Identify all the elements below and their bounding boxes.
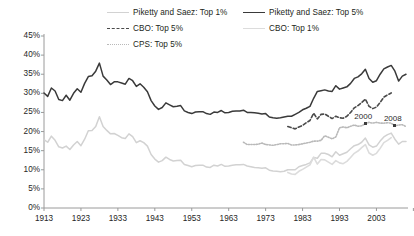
annotation-label: 2008	[384, 114, 402, 123]
x-axis-tick-label: 1953	[172, 214, 212, 223]
series-line-cbo-top-5	[288, 93, 391, 129]
x-axis-tick-label: 1963	[209, 214, 249, 223]
y-axis-tick-label: 25%	[6, 108, 40, 116]
x-axis-tick-label: 1973	[246, 214, 286, 223]
x-axis-tick-label: 1913	[24, 214, 64, 223]
x-axis-tick-label: 1923	[61, 214, 101, 223]
series-line-piketty-and-saez-top-5	[44, 63, 406, 118]
annotation-label: 2000	[354, 112, 372, 121]
x-axis-tick-label: 1993	[320, 214, 360, 223]
annotation-marker	[393, 124, 396, 127]
series-line-piketty-and-saez-top-1	[44, 117, 406, 172]
y-axis-tick-label: 30%	[6, 89, 40, 97]
chart-canvas	[0, 0, 414, 236]
series-line-cps-top-5	[243, 122, 406, 145]
y-axis-tick-label: 20%	[6, 128, 40, 136]
y-axis-tick-label: 35%	[6, 70, 40, 78]
x-axis-tick-label: 1933	[98, 214, 138, 223]
y-axis-tick-label: 45%	[6, 32, 40, 40]
y-axis-tick-label: 5%	[6, 185, 40, 193]
y-axis-tick-label: 10%	[6, 166, 40, 174]
y-axis-tick-label: 15%	[6, 147, 40, 155]
x-axis-tick-label: 2003	[356, 214, 396, 223]
x-axis-tick-label: 1983	[283, 214, 323, 223]
income-share-chart: Piketty and Saez: Top 1% CBO: Top 5% CPS…	[0, 0, 414, 236]
plot-area	[0, 0, 414, 236]
x-axis-tick-label: 1943	[135, 214, 175, 223]
y-axis-tick-label: 40%	[6, 51, 40, 59]
annotation-marker	[364, 122, 367, 125]
y-axis-tick-label: 0%	[6, 204, 40, 212]
